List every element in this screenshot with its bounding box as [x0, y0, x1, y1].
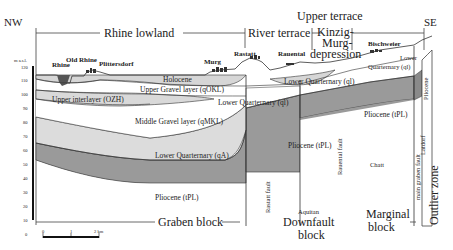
- svg-text:100: 100: [21, 92, 29, 97]
- label-rauental-fault: Rauental fault: [336, 138, 343, 175]
- label-lower-quaternary-ql-1: Lower Quarternary (ql): [218, 98, 289, 107]
- svg-text:90: 90: [23, 106, 28, 111]
- svg-text:120: 120: [21, 65, 29, 70]
- region-kinzig-murg-3: depression: [310, 47, 361, 61]
- label-pliocene-3: Pliocene (tPL): [364, 110, 408, 119]
- svg-text:0: 0: [42, 229, 45, 234]
- label-lower-quaternary-ql-2: Lower Quarternary (ql): [284, 77, 355, 86]
- svg-text:80: 80: [23, 120, 28, 125]
- rhine-channel: [57, 75, 70, 86]
- scale-bar: 0 1 2 km: [42, 229, 104, 238]
- label-lower-quaternary-qa: Lower Quarternary (qA): [155, 151, 229, 160]
- block-graben: Graben block: [158, 215, 223, 229]
- direction-nw: NW: [4, 16, 23, 28]
- town-rauental: Rauental: [278, 50, 305, 58]
- svg-text:2 km: 2 km: [94, 229, 104, 234]
- svg-text:30: 30: [23, 190, 28, 195]
- label-pliocene-1: Pliocene (tPL): [155, 193, 199, 202]
- geological-cross-section: NW SE Rhine lowland River terrace Upper …: [0, 0, 453, 250]
- elevation-axis: m a.s.l. 120 110 100 90 80 70 60 50 40 3…: [14, 58, 34, 237]
- svg-text:60: 60: [23, 148, 28, 153]
- block-downfault-2: block: [298, 228, 325, 242]
- label-upper-gravel: Upper Gravel layer (qOKL): [140, 85, 224, 94]
- svg-text:40: 40: [23, 176, 28, 181]
- svg-text:50: 50: [23, 162, 28, 167]
- label-chatt: Chatt: [370, 161, 384, 168]
- label-pliocene-edge: Pliocene: [422, 78, 429, 100]
- label-upper-interlayer: Upper interlayer (OZH): [52, 95, 124, 104]
- town-rastatt: Rastatt: [234, 50, 256, 58]
- town-bischweier: Bischweier: [368, 40, 401, 48]
- svg-text:0: 0: [25, 232, 28, 237]
- town-plittersdorf: Plittersdorf: [99, 60, 134, 68]
- label-lower-quaternary-ql-3b: Quarternary (ql): [368, 63, 410, 71]
- block-outlier-zone: Outlier zone: [427, 165, 441, 225]
- region-rhine-lowland: Rhine lowland: [104, 26, 174, 40]
- block-marginal-1: Marginal: [366, 207, 410, 221]
- label-holocene: Holocene: [163, 75, 192, 84]
- svg-text:20: 20: [23, 204, 28, 209]
- block-downfault-1: Downfault: [283, 215, 335, 229]
- label-pliocene-2: Pliocene (tPL): [288, 141, 332, 150]
- svg-text:110: 110: [21, 78, 28, 83]
- axis-unit: m a.s.l.: [14, 58, 27, 63]
- svg-text:70: 70: [23, 134, 28, 139]
- town-old-rhine: Old Rhine: [66, 56, 97, 64]
- block-marginal-2: block: [368, 220, 395, 234]
- direction-se: SE: [424, 16, 437, 28]
- label-middle-gravel: Middle Gravel layer (qMKL): [135, 117, 224, 126]
- town-murg: Murg: [204, 58, 222, 66]
- region-upper-terrace: Upper terrace: [297, 9, 363, 23]
- label-rastatt-fault: Rastatt fault: [264, 181, 271, 213]
- label-latdorf: Latdorf: [419, 135, 426, 155]
- layers: [36, 50, 432, 226]
- label-main-graben-fault: main graben fault: [414, 154, 421, 200]
- svg-text:1: 1: [70, 229, 72, 234]
- region-river-terrace: River terrace: [248, 26, 310, 40]
- svg-text:10: 10: [23, 218, 28, 223]
- label-lower-quaternary-ql-3a: Lower: [400, 54, 418, 61]
- label-aquitan: Aquitan: [298, 208, 320, 215]
- region-headers: Rhine lowland River terrace Upper terrac…: [36, 9, 424, 61]
